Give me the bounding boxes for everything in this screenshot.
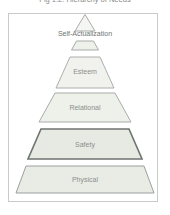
level-label-esteem: Esteem [0,68,170,76]
level-label-safety: Safety [0,141,170,149]
screenshot-root: Fig 1.2: Hierarchy of Needs Self-Actuali… [0,0,170,215]
pyramid-self-actualization-shape [72,41,99,50]
level-label-self-actualization: Self-Actualization [0,30,170,38]
level-label-physical: Physical [0,176,170,184]
level-label-relational: Relational [0,104,170,112]
pyramid-apex-triangle [75,15,95,32]
